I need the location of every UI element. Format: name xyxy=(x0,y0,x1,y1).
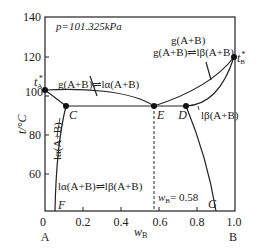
label-tB: tB* xyxy=(237,50,245,66)
dew-curve-right xyxy=(154,57,234,106)
x-tick-0: 0 xyxy=(40,215,46,229)
label-C: C xyxy=(69,108,78,122)
leader-line-lb xyxy=(198,106,199,110)
point-tA xyxy=(42,87,48,93)
region-g-la: g(A+B)⇌lα(A+B) xyxy=(58,78,139,91)
x-tick-0.4: 0.4 xyxy=(114,215,129,229)
label-E: E xyxy=(156,108,165,122)
liquidus-left xyxy=(45,90,66,106)
x-axis-label: wB xyxy=(134,225,147,240)
label-F: F xyxy=(57,198,66,212)
phase-diagram: 140 120 100 80 60 0 0.2 0.4 0.6 0.8 1.0 … xyxy=(0,0,258,252)
x-axis-ticks xyxy=(83,207,197,211)
region-la: lα(A+B) xyxy=(51,122,64,160)
y-tick-120: 120 xyxy=(23,50,41,64)
y-axis-label: t/°C xyxy=(15,114,29,134)
region-g-lb: g(A+B)⇌lβ(A+B) xyxy=(153,46,234,59)
y-tick-80: 80 xyxy=(29,128,41,142)
region-la-lb: lα(A+B)⇌lβ(A+B) xyxy=(58,180,143,193)
x-end-label-B: B xyxy=(229,230,237,244)
label-tA: tA* xyxy=(34,74,42,90)
region-lb: lβ(A+B) xyxy=(201,109,239,122)
x-tick-0.2: 0.2 xyxy=(76,215,91,229)
x-tick-0.8: 0.8 xyxy=(190,215,205,229)
wB-annotation: wB= 0.58 xyxy=(158,191,199,205)
x-tick-1.0: 1.0 xyxy=(227,215,242,229)
label-G: G xyxy=(208,197,217,211)
dew-curve-left xyxy=(45,89,154,106)
x-end-label-A: A xyxy=(41,230,50,244)
pressure-label: p=101.325kPa xyxy=(55,20,122,32)
y-tick-140: 140 xyxy=(23,10,41,24)
x-tick-0.6: 0.6 xyxy=(153,215,168,229)
liquidus-right xyxy=(186,57,234,106)
label-D: D xyxy=(177,108,187,122)
y-tick-60: 60 xyxy=(29,167,41,181)
leader-line-g-lb xyxy=(206,62,211,80)
